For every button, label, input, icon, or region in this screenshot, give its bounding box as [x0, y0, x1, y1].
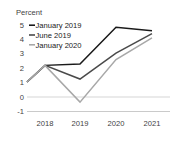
x-tick-label: 2020 [108, 119, 125, 128]
y-tick-label: 0 [20, 93, 24, 102]
x-tick-label: 2018 [37, 119, 54, 128]
y-tick-label: 3 [20, 49, 24, 58]
y-axis-title: Percent [16, 8, 43, 17]
y-tick-label: 2 [20, 64, 24, 73]
y-tick-label: 5 [20, 21, 24, 30]
legend-label-series-3: January 2020 [36, 41, 82, 50]
chart-canvas: Percent 5 4 3 2 1 0 -1 2018 2019 2020 20… [0, 0, 173, 141]
x-axis-ticks: 2018 2019 2020 2021 [37, 119, 161, 128]
chart-legend: January 2019 June 2019 January 2020 [29, 21, 82, 50]
line-chart: Percent 5 4 3 2 1 0 -1 2018 2019 2020 20… [0, 0, 173, 141]
y-tick-label: 1 [20, 78, 24, 87]
y-tick-label: -1 [17, 107, 24, 116]
x-tick-label: 2019 [72, 119, 89, 128]
y-tick-label: 4 [20, 35, 24, 44]
y-axis-ticks: 5 4 3 2 1 0 -1 [17, 21, 24, 117]
legend-label-series-2: June 2019 [36, 31, 71, 40]
x-tick-label: 2021 [144, 119, 161, 128]
legend-label-series-1: January 2019 [36, 21, 82, 30]
